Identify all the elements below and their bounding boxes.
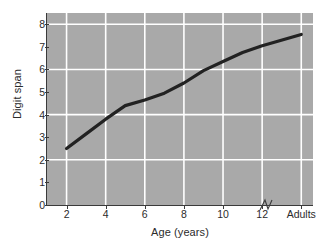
x-tick-label: 8 [181, 208, 187, 220]
x-tick-mark [223, 205, 224, 209]
x-tick-label: 2 [64, 208, 70, 220]
x-tick-label: Adults [287, 208, 316, 220]
x-tick-mark [106, 205, 107, 209]
x-tick-label: 4 [103, 208, 109, 220]
y-axis-title: Digit span [11, 44, 23, 144]
x-tick-mark [67, 205, 68, 209]
x-axis-title: Age (years) [47, 226, 313, 238]
x-tick-mark [145, 205, 146, 209]
x-tick-mark [301, 205, 302, 209]
x-tick-mark [184, 205, 185, 209]
x-tick-label: 6 [142, 208, 148, 220]
x-tick-label: 10 [217, 208, 229, 220]
axis-break-icon [258, 198, 274, 212]
chart-figure: 012345678 24681012Adults Digit span Age … [0, 0, 319, 246]
